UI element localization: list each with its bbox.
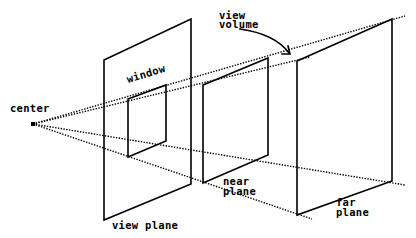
view-volume-label-line2: volume — [219, 18, 259, 30]
view-volume-arrow-icon — [240, 29, 290, 54]
window-label: window — [125, 62, 167, 85]
projector-top-right — [33, 16, 405, 124]
window — [128, 85, 166, 157]
center-label: center — [10, 102, 50, 114]
projector-bottom-left — [33, 124, 312, 219]
view-volume-diagram: center window view volume view plane nea… — [0, 0, 416, 238]
far-plane-label-line2: plane — [336, 206, 369, 218]
projector-lines — [33, 16, 405, 219]
near-plane — [203, 58, 268, 183]
view-plane — [104, 19, 191, 220]
center-point-icon — [31, 122, 35, 126]
far-plane — [297, 19, 392, 215]
view-plane-label: view plane — [112, 219, 178, 231]
near-plane-label-line2: plane — [223, 185, 256, 197]
